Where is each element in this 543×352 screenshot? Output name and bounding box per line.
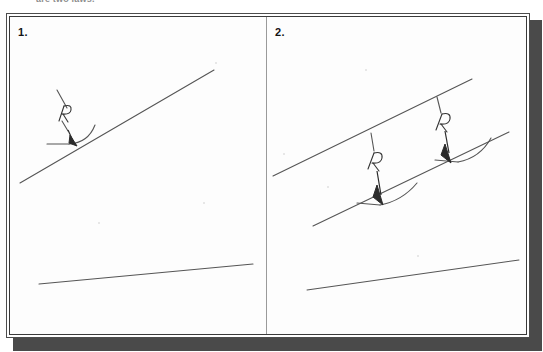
panel-1-drawing (10, 17, 266, 334)
radius-arrow-lower (373, 171, 383, 205)
leader-lower-segment (62, 121, 68, 131)
scanned-figure-page: are two laws. 1. (0, 0, 543, 352)
panel-2-drawing (267, 17, 526, 334)
upper-line (273, 79, 472, 176)
leader-line-lower (371, 133, 374, 151)
figure-panel-1: 1. (10, 17, 266, 334)
radius-label-r-upper (436, 114, 450, 132)
top-caption-text: are two laws. (36, 0, 216, 6)
scan-speck (203, 202, 205, 204)
leader-line-upper (437, 97, 441, 113)
frame-shadow-bottom (13, 337, 542, 351)
fillet-stub-lower (357, 203, 380, 205)
radius-arrow-upper (441, 131, 451, 163)
scan-speck (98, 222, 100, 224)
lower-line (307, 260, 519, 290)
radius-arrow (68, 130, 77, 146)
scan-speck (365, 69, 367, 71)
radius-label-r-lower (368, 153, 382, 171)
radius-label-r (59, 106, 71, 123)
upper-line (20, 70, 214, 183)
frame-shadow-right (528, 20, 542, 351)
fillet-arc-upper (458, 138, 491, 162)
scan-speck (327, 186, 329, 188)
scan-speck (215, 62, 217, 64)
scan-speck (417, 255, 419, 257)
figure-panel-2: 2. (267, 17, 526, 334)
scan-speck (283, 153, 285, 155)
middle-line (313, 132, 509, 226)
lower-line (39, 264, 253, 284)
fillet-arc-lower (380, 183, 417, 205)
